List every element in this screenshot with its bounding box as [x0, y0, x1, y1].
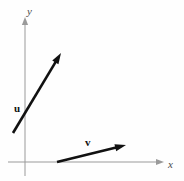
vector-u-label: u — [14, 103, 20, 114]
vector-u-arrowhead — [52, 53, 61, 64]
vector-v-arrowhead — [114, 144, 126, 151]
y-axis-arrowhead — [22, 17, 28, 25]
vector-diagram-figure: y x u v — [0, 0, 184, 181]
x-axis-arrowhead — [156, 159, 164, 165]
diagram-canvas — [0, 0, 184, 181]
x-axis-label: x — [168, 159, 173, 170]
vector-v-label: v — [85, 137, 91, 148]
vector-u-shaft — [13, 60, 57, 133]
y-axis-label: y — [27, 6, 32, 17]
vector-v-shaft — [57, 147, 118, 162]
